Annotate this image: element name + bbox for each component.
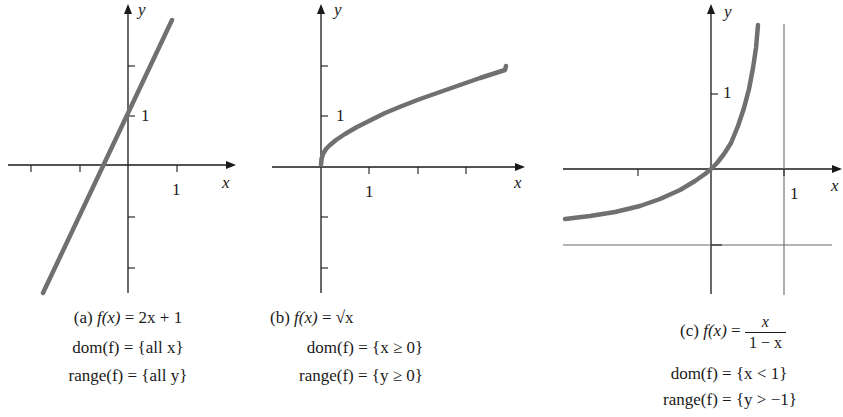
x-tick-label-c: 1 — [790, 184, 799, 204]
graph-b — [272, 6, 523, 293]
y-axis-label-a: y — [138, 0, 146, 20]
domain-b: dom(f) = {x ≥ 0} — [256, 335, 456, 361]
y-axis-label-b: y — [334, 0, 342, 20]
graph-a — [8, 6, 234, 293]
x-tick-label-b: 1 — [365, 182, 374, 202]
graph-c — [563, 6, 840, 295]
y-tick-label-b: 1 — [336, 106, 345, 126]
x-axis-label-a: x — [222, 173, 230, 193]
domain-a: dom(f) = {all x} — [28, 335, 228, 361]
x-axis-label-c: x — [831, 176, 839, 196]
caption-a: (a) f(x) = 2x + 1 dom(f) = {all x} range… — [28, 305, 228, 389]
range-a: range(f) = {all y} — [28, 363, 228, 389]
y-tick-label-a: 1 — [141, 106, 150, 126]
function-curve-a — [43, 20, 172, 293]
caption-c: (c) f(x) = x1 − x dom(f) = {x < 1} range… — [600, 312, 840, 413]
function-curve-b — [321, 66, 506, 165]
function-definition-c: (c) f(x) = x1 − x — [626, 312, 840, 353]
function-definition-a: (a) f(x) = 2x + 1 — [28, 305, 228, 331]
x-tick-label-a: 1 — [172, 180, 181, 200]
fraction: x1 − x — [745, 312, 786, 353]
function-curve-c — [565, 25, 758, 219]
caption-b: (b) f(x) = √x dom(f) = {x ≥ 0} range(f) … — [256, 305, 456, 389]
domain-c: dom(f) = {x < 1} — [600, 361, 840, 387]
range-c: range(f) = {y > −1} — [600, 387, 840, 413]
x-axis-label-b: x — [514, 173, 522, 193]
function-definition-b: (b) f(x) = √x — [256, 305, 456, 331]
range-b: range(f) = {y ≥ 0} — [256, 363, 456, 389]
y-tick-label-c: 1 — [723, 83, 732, 103]
y-axis-label-c: y — [724, 2, 732, 22]
